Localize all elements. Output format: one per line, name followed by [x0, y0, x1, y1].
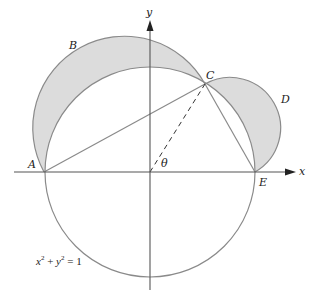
point-e-label: E	[258, 176, 267, 189]
diagram-canvas: x y A B C D E θ x2 + y2 = 1	[0, 0, 311, 297]
lune-diagram: x y A B C D E θ x2 + y2 = 1	[0, 0, 311, 297]
radius-oc-dashed	[150, 84, 205, 172]
point-d-label: D	[280, 93, 290, 106]
angle-theta-label: θ	[161, 157, 168, 170]
x-axis-arrow-icon	[285, 169, 296, 176]
point-c-label: C	[206, 69, 215, 82]
y-axis-label: y	[145, 6, 153, 19]
y-axis-arrow-icon	[147, 20, 154, 31]
circle-equation-label: x2 + y2 = 1	[35, 254, 82, 267]
point-b-label: B	[68, 39, 77, 52]
point-a-label: A	[27, 158, 36, 171]
x-axis-label: x	[299, 165, 306, 178]
